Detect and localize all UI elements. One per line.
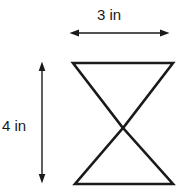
- width-dimension-label: 3 in: [0, 6, 176, 23]
- geometry-figure-container: 3 in 4 in: [0, 0, 176, 190]
- upper-triangle: [73, 63, 173, 128]
- bowtie-shape: [73, 63, 173, 184]
- width-arrow-head-right: [160, 30, 170, 37]
- bowtie-figure-svg: [0, 0, 176, 190]
- width-arrow-head-left: [70, 30, 80, 37]
- width-dimension-arrow: [70, 30, 170, 37]
- height-arrow-head-bottom: [39, 174, 46, 184]
- height-arrow-head-top: [39, 62, 46, 72]
- height-dimension-label: 4 in: [2, 117, 40, 134]
- lower-triangle: [75, 128, 173, 184]
